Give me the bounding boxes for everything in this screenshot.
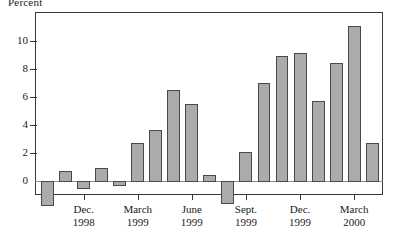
bar (185, 104, 198, 182)
bar (95, 168, 108, 182)
x-axis-tick-label-month: Dec. (290, 203, 310, 215)
bar (258, 83, 271, 182)
y-axis-tick (30, 97, 37, 98)
bar (203, 175, 216, 182)
plot-area (35, 12, 383, 195)
y-axis-tick-label: 2 (4, 147, 28, 158)
bar (366, 143, 379, 182)
bar (294, 53, 307, 182)
bar (239, 152, 252, 183)
bar (348, 26, 361, 182)
bar (312, 101, 325, 182)
x-axis-tick-label: March2000 (319, 203, 389, 229)
x-axis-tick-label-month: March (123, 203, 152, 215)
y-axis-tick-label: 6 (4, 91, 28, 102)
bar (330, 63, 343, 182)
y-axis-tick-label: 8 (4, 63, 28, 74)
x-axis-tick (246, 195, 247, 200)
bar-chart: Percent 0246810 Dec.1998March1999June199… (0, 0, 418, 252)
bar (221, 181, 234, 204)
x-axis-tick (300, 195, 301, 200)
bar (113, 181, 126, 186)
y-axis-tick-label: 10 (4, 35, 28, 46)
y-axis-tick (30, 41, 37, 42)
bar (276, 56, 289, 182)
x-axis-tick-label-month: Sept. (235, 203, 257, 215)
bar (59, 171, 72, 182)
bar (149, 130, 162, 182)
x-axis-tick-label-year: 2000 (319, 216, 389, 229)
y-axis-tick-label: 4 (4, 119, 28, 130)
bar (167, 90, 180, 182)
x-axis-tick-label-month: Dec. (73, 203, 93, 215)
x-axis-tick (192, 195, 193, 200)
x-axis-tick-label-month: March (340, 203, 369, 215)
x-axis-tick-label-month: June (182, 203, 202, 215)
y-axis-tick (30, 153, 37, 154)
y-axis-tick-label: 0 (4, 175, 28, 186)
x-axis-tick (354, 195, 355, 200)
bar (131, 143, 144, 182)
bar (77, 181, 90, 189)
y-axis-title: Percent (8, 0, 42, 8)
x-axis-tick (84, 195, 85, 200)
y-axis-tick (30, 69, 37, 70)
x-axis-tick (138, 195, 139, 200)
y-axis-tick (30, 125, 37, 126)
